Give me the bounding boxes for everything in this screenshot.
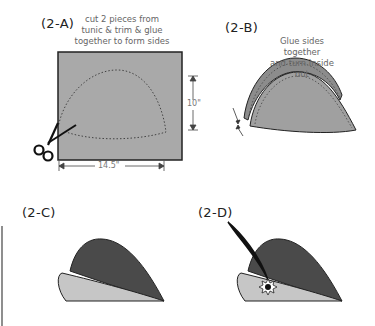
width-label: 14.5" — [98, 161, 120, 170]
panel-2d-label: (2-D) — [198, 205, 233, 220]
panel-2b-label: (2-B) — [225, 20, 258, 35]
height-label: 10" — [187, 99, 201, 108]
panel-2b-note-line-2: and turn inside out — [262, 58, 342, 80]
fabric-rectangle — [58, 52, 182, 160]
panel-2b-note-line-1: Glue sides together — [262, 36, 342, 58]
star-badge-icon — [259, 279, 277, 295]
hat-assembled — [58, 239, 164, 301]
panel-2b-note: Glue sides together and turn inside out — [262, 36, 342, 80]
hat-decorated — [228, 222, 342, 301]
panel-2c-label: (2-C) — [22, 205, 56, 220]
